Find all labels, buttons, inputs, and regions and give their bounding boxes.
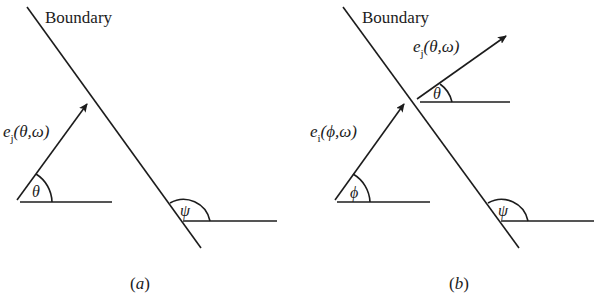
boundary-label: Boundary bbox=[362, 8, 430, 27]
theta-angle-label: θ bbox=[32, 183, 40, 200]
vector-label-ei: ei(ϕ,ω) bbox=[310, 122, 357, 144]
panel-b: Boundary θ ej(θ,ω) ϕ ei(ϕ,ω) ψ (b) bbox=[310, 7, 594, 293]
vector-arrow-ej bbox=[17, 104, 87, 200]
vector-label-ej: ej(θ,ω) bbox=[413, 37, 460, 59]
panel-a: Boundary θ ej(θ,ω) ψ (a) bbox=[3, 7, 277, 293]
psi-angle-arc bbox=[170, 199, 210, 221]
boundary-line bbox=[27, 7, 201, 248]
diagram-canvas: Boundary θ ej(θ,ω) ψ (a) Boundary θ ej(θ… bbox=[0, 0, 599, 297]
vector-label-ej: ej(θ,ω) bbox=[3, 122, 50, 144]
theta-angle-arc bbox=[440, 84, 452, 102]
vector-arrow-ei bbox=[335, 104, 404, 200]
psi-angle-label: ψ bbox=[180, 202, 191, 220]
phi-angle-label: ϕ bbox=[350, 184, 358, 202]
panel-caption-a: (a) bbox=[130, 274, 150, 293]
psi-angle-arc bbox=[488, 199, 528, 221]
boundary-label: Boundary bbox=[45, 8, 113, 27]
panel-caption-b: (b) bbox=[449, 274, 469, 293]
psi-angle-label: ψ bbox=[498, 202, 509, 220]
theta-angle-label: θ bbox=[433, 85, 441, 102]
